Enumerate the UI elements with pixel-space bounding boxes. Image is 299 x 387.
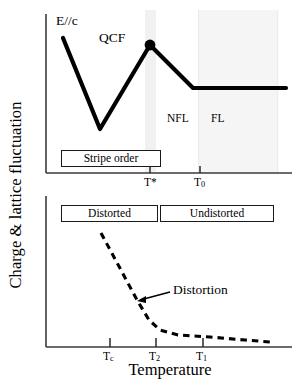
phase-box-undistorted: Undistorted [160,205,274,222]
shaded-band-fl [198,10,278,173]
phase-box-stripe-order: Stripe order [61,150,161,167]
distortion-leader-arrowhead [137,296,146,303]
regime-label-fl: FL [211,113,224,125]
shaded-band-t-star [145,10,156,173]
distortion-annotation: Distortion [173,283,228,297]
x-axis-label: Temperature [50,360,290,380]
shaded-band-fl-edge-right [277,10,278,173]
qcf-peak-marker [145,40,156,51]
polarization-label: E//c [56,14,78,28]
qcf-label: QCF [99,31,125,45]
tick-label-t-zero: T0 [194,177,205,189]
regime-label-nfl: NFL [167,113,189,125]
plot-svg [0,0,299,387]
tick-label-t-zero-sub: 0 [201,180,205,189]
figure-canvas: Charge & lattice fluctuation E//c QCF [0,0,299,387]
shaded-band-fl-edge [198,10,199,173]
tick-label-t-star: T* [144,177,157,189]
tick-label-t-zero-base: T [194,176,201,188]
phase-box-distorted: Distorted [61,205,158,222]
